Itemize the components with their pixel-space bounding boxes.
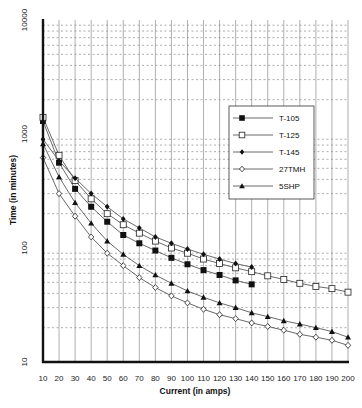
x-tick-label: 180 [309,374,323,383]
legend-label: T-145 [279,148,300,157]
square-marker-icon [239,115,245,121]
open-square-marker-icon [88,196,94,202]
y-tick-label: 10000 [20,8,29,31]
open-diamond-marker-icon [137,275,142,281]
open-diamond-marker-icon [121,263,126,269]
open-diamond-marker-icon [201,306,206,312]
legend-label: 27TMH [279,165,305,174]
diamond-marker-icon [121,216,126,222]
x-tick-label: 100 [181,374,195,383]
y-tick-label: 1000 [20,125,29,143]
triangle-marker-icon [168,280,174,285]
open-diamond-marker-icon [185,300,190,306]
open-square-marker-icon [120,222,126,228]
open-diamond-marker-icon [265,323,270,329]
square-marker-icon [120,232,126,238]
open-diamond-marker-icon [345,342,350,348]
open-diamond-marker-icon [153,285,158,291]
x-tick-label: 150 [261,374,275,383]
x-tick-label: 130 [229,374,243,383]
open-square-marker-icon [345,289,351,295]
x-tick-label: 70 [135,374,144,383]
square-marker-icon [88,204,94,210]
x-tick-label: 50 [103,374,112,383]
triangle-marker-icon [345,334,351,339]
open-square-marker-icon [297,280,303,286]
open-diamond-marker-icon [313,334,318,340]
x-tick-label: 90 [167,374,176,383]
x-tick-label: 20 [55,374,64,383]
y-tick-label: 10 [20,357,29,366]
x-tick-label: 80 [151,374,160,383]
open-square-marker-icon [265,273,271,279]
triangle-marker-icon [72,200,78,205]
triangle-marker-icon [217,300,223,305]
x-tick-label: 200 [341,374,355,383]
open-square-marker-icon [136,230,142,236]
x-tick-label: 160 [277,374,291,383]
triangle-marker-icon [136,263,142,268]
x-tick-label: 40 [87,374,96,383]
x-axis-label: Current (in amps) [160,386,231,396]
square-marker-icon [201,267,207,273]
y-tick-label: 100 [20,241,29,255]
x-tick-label: 10 [39,374,48,383]
legend-label: 5SHP [279,182,300,191]
legend-label: T-125 [279,131,300,140]
open-diamond-marker-icon [169,293,174,299]
x-tick-label: 60 [119,374,128,383]
square-marker-icon [72,186,78,192]
triangle-marker-icon [201,294,207,299]
open-diamond-marker-icon [233,316,238,322]
series-t-145 [41,136,254,270]
x-tick-label: 140 [245,374,259,383]
square-marker-icon [249,281,255,287]
y-axis-label: Time (in minutes) [8,155,18,225]
triangle-marker-icon [184,288,190,293]
open-square-marker-icon [313,283,319,289]
open-square-marker-icon [239,132,245,138]
square-marker-icon [233,277,239,283]
x-tick-label: 190 [325,374,339,383]
square-marker-icon [152,248,158,254]
open-square-marker-icon [329,286,335,292]
diamond-marker-icon [105,204,110,210]
open-diamond-marker-icon [217,312,222,318]
x-tick-label: 120 [213,374,227,383]
square-marker-icon [168,255,174,261]
open-square-marker-icon [104,211,110,217]
square-marker-icon [184,261,190,267]
legend: T-105T-125T-14527TMH5SHP [229,106,314,199]
open-diamond-marker-icon [281,327,286,333]
x-tick-label: 30 [71,374,80,383]
open-square-marker-icon [56,152,62,158]
open-square-marker-icon [281,276,287,282]
square-marker-icon [104,219,110,225]
x-tick-label: 110 [197,374,210,383]
chart: 1020304050607080901001101201301401501601… [0,0,362,408]
open-diamond-marker-icon [249,320,254,326]
square-marker-icon [136,240,142,246]
open-diamond-marker-icon [297,331,302,337]
square-marker-icon [217,272,223,278]
triangle-marker-icon [152,272,158,277]
triangle-marker-icon [56,174,62,179]
open-diamond-marker-icon [329,337,334,343]
x-tick-label: 170 [293,374,307,383]
legend-label: T-105 [279,114,300,123]
